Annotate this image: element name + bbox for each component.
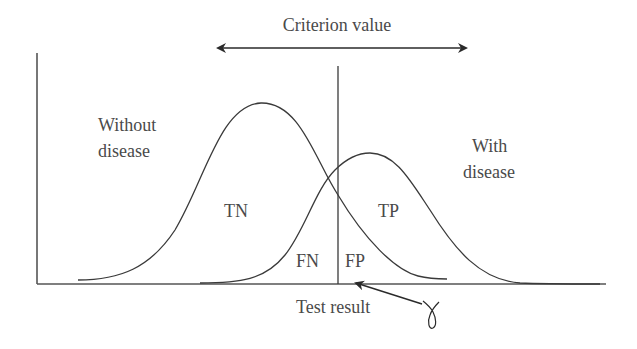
without-disease-label-line1: Without xyxy=(98,115,156,135)
roc-criterion-diagram: Criterion value Without disease With dis… xyxy=(0,0,637,349)
false-positive-label: FP xyxy=(345,251,365,271)
with-disease-label-line2: disease xyxy=(463,162,515,182)
x-axis-label: Test result xyxy=(296,297,370,317)
true-positive-label: TP xyxy=(378,201,399,221)
true-negative-label: TN xyxy=(224,201,248,221)
false-negative-label: FN xyxy=(296,251,319,271)
handwritten-gamma-icon xyxy=(423,301,439,328)
with-disease-label-line1: With xyxy=(472,136,507,156)
without-disease-label-line2: disease xyxy=(98,141,150,161)
criterion-value-title: Criterion value xyxy=(283,15,391,35)
with-disease-curve xyxy=(200,153,600,284)
